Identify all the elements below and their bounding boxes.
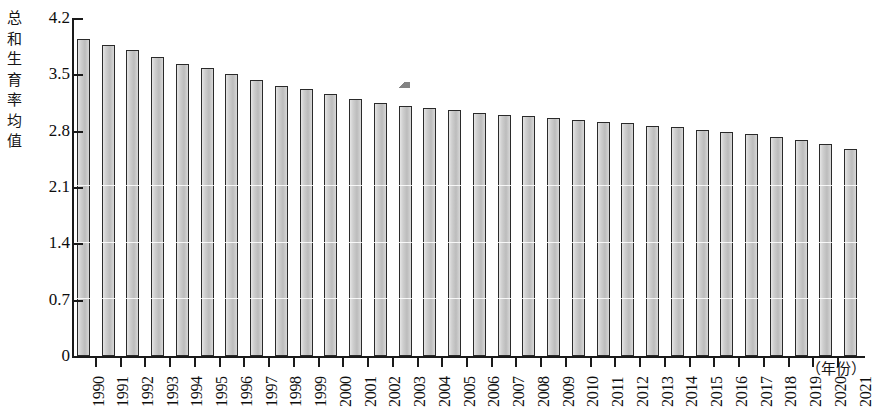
y-axis-tick-labels: 00.71.42.12.83.54.2 [22, 0, 70, 407]
bar [819, 144, 832, 356]
bar [176, 64, 189, 356]
y-axis-tick-label: 0.7 [28, 291, 70, 308]
x-axis-tick-label: 2011 [610, 358, 626, 407]
y-axis-tick-mark [74, 187, 83, 189]
bar [225, 74, 238, 356]
bar [374, 103, 387, 356]
y-axis-tick-label: 2.1 [28, 178, 70, 195]
x-axis-tick-label: 1992 [140, 358, 156, 407]
x-axis-tick-label: 2001 [363, 358, 379, 407]
x-axis-tick-label: 1991 [115, 358, 131, 407]
bar [597, 122, 610, 356]
x-axis-tick-label: 2000 [338, 358, 354, 407]
x-axis-tick-label: 2016 [734, 358, 750, 407]
x-axis-tick-label: 2014 [684, 358, 700, 407]
bar [671, 127, 684, 356]
x-axis-tick-label: 1998 [288, 358, 304, 407]
x-axis-tick-label: 2010 [585, 358, 601, 407]
bar [324, 94, 337, 356]
x-axis-tick-label: 1999 [313, 358, 329, 407]
bar [126, 50, 139, 356]
x-axis-tick-label: 1993 [165, 358, 181, 407]
bars-layer [72, 18, 865, 358]
x-axis-tick-label: 1996 [239, 358, 255, 407]
bar [250, 80, 263, 356]
bar [399, 106, 412, 356]
x-axis-tick-labels: 1990199119921993199419951996199719981999… [72, 358, 871, 407]
y-axis-tick-mark [74, 131, 83, 133]
bar [720, 132, 733, 356]
bar [522, 116, 535, 356]
bar [102, 45, 115, 356]
bar [423, 108, 436, 356]
plot-area [72, 18, 865, 358]
x-axis-tick-label: 2008 [536, 358, 552, 407]
bar [572, 120, 585, 356]
y-axis-tick-mark [74, 18, 83, 20]
x-axis-tick-label: 1997 [264, 358, 280, 407]
y-axis-tick-mark [74, 243, 83, 245]
x-axis-tick-label: 1995 [214, 358, 230, 407]
x-axis-tick-label: 2004 [437, 358, 453, 407]
y-axis-tick-label: 1.4 [28, 234, 70, 251]
bar [473, 113, 486, 356]
x-axis-tick-label: 2007 [511, 358, 527, 407]
bar [770, 137, 783, 356]
bar [151, 57, 164, 356]
scan-artifact-smudge [399, 82, 410, 88]
bar [696, 130, 709, 356]
x-axis-tick-label: 2006 [486, 358, 502, 407]
bar [275, 86, 288, 356]
bar [201, 68, 214, 356]
y-axis-tick-label: 3.5 [28, 65, 70, 82]
x-axis-tick-label: 2005 [462, 358, 478, 407]
x-axis-tick-label: 1994 [189, 358, 205, 407]
bar [795, 140, 808, 356]
y-axis-tick-label: 0 [28, 347, 70, 364]
bar [745, 134, 758, 356]
x-axis-tick-label: 1990 [91, 358, 107, 407]
bar [621, 123, 634, 356]
bar [448, 110, 461, 356]
bar [547, 118, 560, 356]
x-axis-tick-label: 2012 [635, 358, 651, 407]
y-axis-tick-label: 2.8 [28, 122, 70, 139]
x-axis-tick-label: 2002 [387, 358, 403, 407]
x-axis-label: （年份） [806, 360, 866, 378]
x-axis-tick-label: 2003 [412, 358, 428, 407]
bar [844, 149, 857, 356]
bar [498, 115, 511, 356]
x-axis-tick-label: 2015 [709, 358, 725, 407]
y-axis-tick-mark [74, 300, 83, 302]
x-axis-tick-label: 2017 [759, 358, 775, 407]
bar [77, 39, 90, 356]
y-axis-tick-mark [74, 74, 83, 76]
bar [646, 126, 659, 356]
x-axis-tick-label: 2018 [783, 358, 799, 407]
bar [349, 99, 362, 356]
y-axis-tick-label: 4.2 [28, 9, 70, 26]
bar [300, 89, 313, 356]
x-axis-tick-label: 2013 [660, 358, 676, 407]
x-axis-tick-label: 2009 [561, 358, 577, 407]
